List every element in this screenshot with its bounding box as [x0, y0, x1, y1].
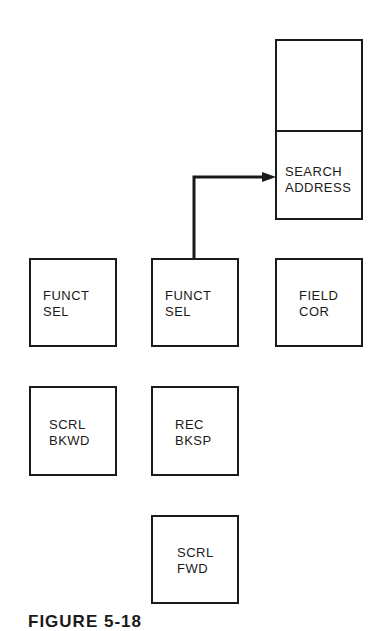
figure-caption: FIGURE 5-18: [28, 612, 142, 631]
arrowhead-icon: [262, 172, 276, 182]
